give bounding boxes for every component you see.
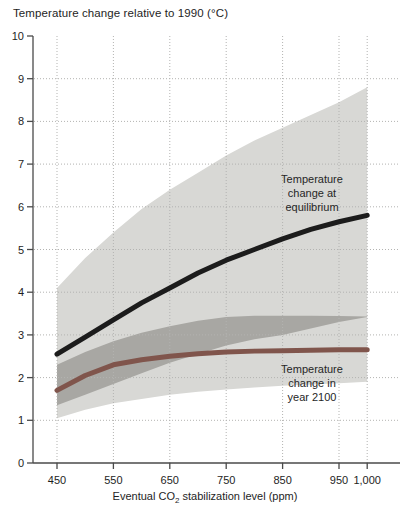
x-tick-label: 850 [273,474,291,486]
y-tick-label: 1 [18,414,24,426]
y-tick-label: 5 [18,244,24,256]
x-axis-label-post: stabilization level (ppm) [179,490,297,502]
y-tick-label: 8 [18,115,24,127]
x-tick-label: 950 [330,474,348,486]
y-tick-label: 10 [12,30,24,42]
equilibrium-label-line3: equilibrium [285,201,338,213]
equilibrium-label-line1: Temperature [281,173,343,185]
equilibrium-curve-label: Temperature change at equilibrium [260,172,364,214]
chart-canvas: 0123456789104505506507508509501,000 [0,0,406,521]
year2100-label-line1: Temperature [281,363,343,375]
year2100-curve-label: Temperature change in year 2100 [260,362,364,404]
x-axis-label: Eventual CO2 stabilization level (ppm) [33,490,377,505]
x-axis-label-pre: Eventual CO [113,490,175,502]
year2100-label-line2: change in [288,377,336,389]
x-tick-label: 650 [161,474,179,486]
figure-page: Temperature change relative to 1990 (°C)… [0,0,406,521]
y-tick-label: 7 [18,158,24,170]
x-tick-label: 550 [104,474,122,486]
y-tick-label: 0 [18,457,24,469]
y-tick-label: 3 [18,329,24,341]
x-tick-label: 1,000 [353,474,381,486]
equilibrium-label-line2: change at [288,187,336,199]
y-tick-label: 4 [18,286,24,298]
x-tick-label: 750 [217,474,235,486]
y-tick-label: 9 [18,73,24,85]
year2100-label-line3: year 2100 [288,391,337,403]
y-tick-label: 2 [18,372,24,384]
y-tick-label: 6 [18,201,24,213]
x-tick-label: 450 [48,474,66,486]
